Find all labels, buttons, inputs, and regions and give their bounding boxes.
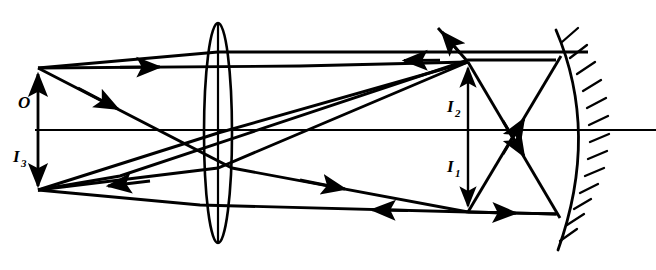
optics-figure-root: O I 3 I 2 I 1 bbox=[0, 0, 656, 270]
background-layer bbox=[0, 0, 656, 270]
ray-arrow-i1-horizontal bbox=[486, 212, 516, 213]
figure-background bbox=[0, 0, 656, 270]
ray-diagram-canvas: O I 3 I 2 I 1 bbox=[0, 0, 656, 270]
label-image-I1-sub: 1 bbox=[455, 167, 461, 179]
label-object-O-base: O bbox=[18, 93, 30, 112]
label-image-I2-sub: 2 bbox=[454, 107, 461, 119]
label-image-I3-sub: 3 bbox=[20, 157, 27, 169]
label-object-O: O bbox=[18, 93, 30, 112]
ray-arrow-mirror-bottom-left bbox=[372, 210, 408, 211]
